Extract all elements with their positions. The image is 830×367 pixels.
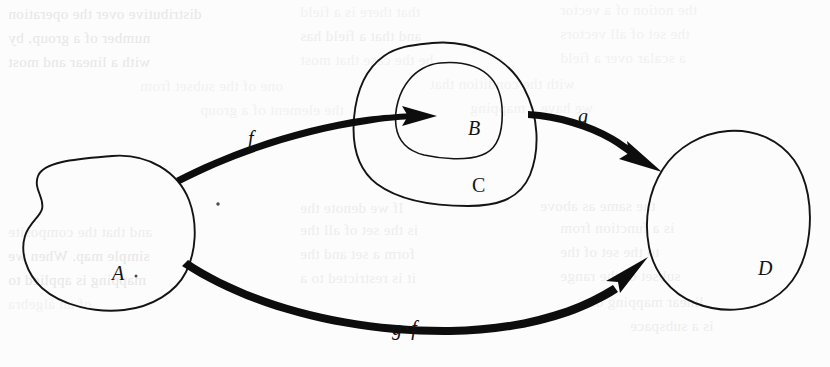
set-blob-d xyxy=(647,131,810,310)
map-label-g: g xyxy=(578,106,588,126)
set-label-b: B xyxy=(468,118,480,138)
set-label-d: D xyxy=(758,258,772,278)
compose-right-operand: f xyxy=(411,317,417,339)
set-label-a: A xyxy=(112,263,124,283)
set-blob-a xyxy=(23,156,194,311)
set-blob-c xyxy=(354,42,537,206)
compose-operator: • xyxy=(402,320,411,336)
map-label-f: f xyxy=(248,128,254,148)
scanned-page: distributive over the operationthat ther… xyxy=(0,0,830,367)
arrow-g xyxy=(528,111,662,172)
ink-speck xyxy=(135,275,138,278)
map-label-g-compose-f: g•f xyxy=(392,318,417,338)
compose-left-operand: g xyxy=(392,317,402,339)
composition-diagram: .blob{fill:none;stroke:#141414;stroke-wi… xyxy=(0,0,830,367)
ink-speck xyxy=(216,202,219,205)
arrow-f xyxy=(176,106,437,184)
set-label-c: C xyxy=(472,175,485,195)
